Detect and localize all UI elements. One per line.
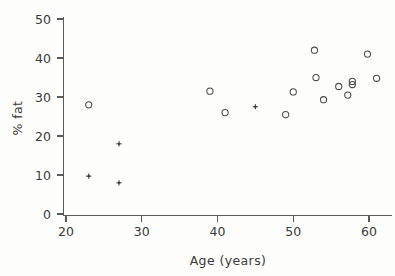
y-tick-label: 10 — [35, 168, 51, 183]
data-point-circle — [345, 92, 351, 98]
data-point-circle — [313, 74, 319, 80]
cross-center — [118, 143, 120, 145]
y-axis-title: % fat — [10, 101, 25, 136]
data-point-cross — [253, 104, 258, 109]
data-point-circle — [364, 51, 370, 57]
plot-canvas: 01020304050 2030405060 Age (years) % fat — [0, 0, 395, 276]
data-point-cross — [116, 180, 121, 185]
x-tick-label: 30 — [134, 224, 150, 239]
y-tick-label: 20 — [35, 129, 51, 144]
x-tick-label: 20 — [58, 224, 74, 239]
x-tick-label: 50 — [285, 224, 301, 239]
data-point-group — [86, 47, 380, 185]
data-point-cross — [116, 141, 121, 146]
data-point-circle — [86, 102, 92, 108]
x-axis-tick-labels: 2030405060 — [58, 224, 377, 239]
cross-center — [88, 175, 90, 177]
x-axis-title: Age (years) — [190, 253, 267, 268]
data-point-circle — [311, 47, 317, 53]
data-point-circle — [320, 97, 326, 103]
x-tick-label: 40 — [210, 224, 226, 239]
data-point-circle — [222, 110, 228, 116]
scatter-plot-figure: 01020304050 2030405060 Age (years) % fat — [0, 0, 395, 276]
data-point-circle — [283, 111, 289, 117]
x-axis-ticks — [66, 216, 369, 223]
y-tick-label: 30 — [35, 90, 51, 105]
data-point-circle — [336, 83, 342, 89]
data-point-circle — [290, 89, 296, 95]
y-axis-tick-labels: 01020304050 — [35, 12, 51, 222]
y-tick-label: 40 — [35, 51, 51, 66]
y-tick-label: 0 — [43, 207, 51, 222]
data-point-circle — [207, 88, 213, 94]
y-axis-ticks — [57, 19, 64, 214]
cross-center — [254, 106, 256, 108]
data-point-circle — [373, 75, 379, 81]
y-tick-label: 50 — [35, 12, 51, 27]
cross-center — [118, 182, 120, 184]
data-point-cross — [86, 174, 91, 179]
x-tick-label: 60 — [361, 224, 377, 239]
